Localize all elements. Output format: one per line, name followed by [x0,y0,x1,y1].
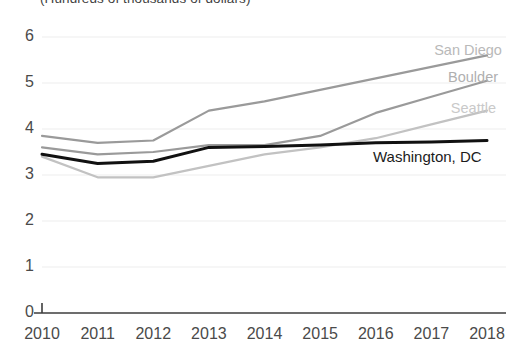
y-tick-label: 3 [8,166,34,182]
series-line-seattle [42,111,487,178]
x-tick-label: 2014 [237,325,293,343]
series-label-seattle: Seattle [451,100,496,116]
x-tick-label: 2018 [459,325,508,343]
x-tick-label: 2015 [292,325,348,343]
series-label-boulder: Boulder [448,69,498,85]
chart-plot-area [0,0,508,353]
y-tick-label: 6 [8,28,34,44]
line-chart: (Hundreds of thousands of dollars) 65432… [0,0,508,353]
axis-lines [34,303,506,313]
x-tick-label: 2012 [125,325,181,343]
y-tick-label: 1 [8,258,34,274]
x-tick-label: 2013 [181,325,237,343]
x-tick-label: 2017 [403,325,459,343]
series-label-san-diego: San Diego [434,42,502,58]
x-tick-label: 2011 [70,325,126,343]
y-tick-label: 5 [8,74,34,90]
x-tick-label: 2010 [14,325,70,343]
y-tick-label: 0 [8,304,34,320]
x-tick-label: 2016 [348,325,404,343]
series-label-washington-dc: Washington, DC [373,149,482,165]
y-tick-label: 2 [8,212,34,228]
y-tick-label: 4 [8,120,34,136]
